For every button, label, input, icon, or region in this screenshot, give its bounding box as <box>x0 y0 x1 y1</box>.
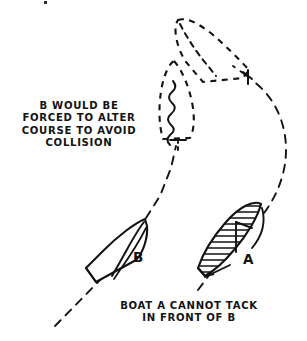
diagram-canvas <box>0 0 307 341</box>
annotation-bottom-note: BOAT A CANNOT TACK IN FRONT OF B <box>98 300 280 325</box>
annotation-left-note: B WOULD BE FORCED TO ALTER COURSE TO AVO… <box>8 100 150 149</box>
track-b-dashed-path <box>55 146 176 326</box>
boat-a-solid-outline <box>190 203 270 277</box>
boat-a-ghost-outline <box>175 19 252 84</box>
boat-label-b: B <box>133 249 143 265</box>
boat-label-a: A <box>243 251 253 267</box>
sailing-rules-diagram: B WOULD BE FORCED TO ALTER COURSE TO AVO… <box>0 0 307 341</box>
boat-b-ghost-outline <box>159 61 193 150</box>
